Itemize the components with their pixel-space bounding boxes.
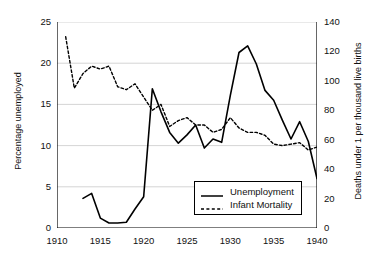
legend-dashed-line-icon	[200, 200, 224, 210]
legend-item-infant-mortality: Infant Mortality	[200, 198, 294, 211]
x-tick-1925: 1925	[170, 235, 204, 246]
chart-figure: Percentage unemployed Deaths under 1 per…	[0, 0, 368, 263]
series-line-infant-mortality	[66, 37, 317, 150]
y-axis-left-title: Percentage unemployed	[13, 41, 23, 201]
legend-label: Unemployment	[230, 186, 294, 197]
chart-legend: UnemploymentInfant Mortality	[194, 181, 302, 215]
legend-label: Infant Mortality	[230, 199, 292, 210]
y-right-tick-120: 120	[324, 45, 350, 56]
x-tick-1915: 1915	[83, 235, 117, 246]
y-left-tick-25: 25	[27, 16, 51, 27]
y-axis-right-title: Deaths under 1 per thousand live births	[353, 31, 363, 211]
y-right-tick-60: 60	[324, 134, 350, 145]
gridlines	[57, 22, 317, 187]
legend-item-unemployment: Unemployment	[200, 185, 294, 198]
x-tick-1920: 1920	[127, 235, 161, 246]
y-right-tick-40: 40	[324, 163, 350, 174]
x-tick-1930: 1930	[213, 235, 247, 246]
y-left-tick-15: 15	[27, 98, 51, 109]
y-right-tick-80: 80	[324, 104, 350, 115]
x-tick-1935: 1935	[257, 235, 291, 246]
x-tick-1910: 1910	[40, 235, 74, 246]
y-right-tick-20: 20	[324, 193, 350, 204]
y-left-tick-0: 0	[27, 222, 51, 233]
y-left-tick-10: 10	[27, 140, 51, 151]
x-tick-1940: 1940	[300, 235, 334, 246]
y-right-tick-100: 100	[324, 75, 350, 86]
y-left-tick-5: 5	[27, 181, 51, 192]
y-right-tick-0: 0	[324, 222, 350, 233]
legend-solid-line-icon	[200, 187, 224, 197]
y-right-tick-140: 140	[324, 16, 350, 27]
y-left-tick-20: 20	[27, 57, 51, 68]
